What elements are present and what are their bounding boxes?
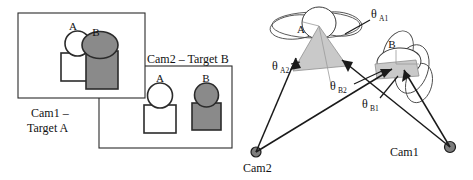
theta-b1-symbol: θ xyxy=(362,97,368,111)
cam1-view-caption-line2: Target A xyxy=(27,121,69,135)
camera-label-cam1: Cam1 xyxy=(390,145,419,159)
cam1-shape-label-b: B xyxy=(92,26,99,38)
theta-a2-symbol: θ xyxy=(272,59,278,73)
theta-a1-subscript: A1 xyxy=(379,14,388,23)
cam1-shape-label-a: A xyxy=(69,20,77,32)
cam2-shape-label-b: B xyxy=(202,72,209,84)
label-theta-a1: θ A1 xyxy=(371,7,388,23)
cam2-view-caption: Cam2 – Target B xyxy=(147,52,229,66)
theta-a1-symbol: θ xyxy=(371,7,377,21)
cam1-target-b-head xyxy=(82,32,118,59)
theta-b2-symbol: θ xyxy=(330,79,336,93)
cam1-view-caption-line1: Cam1 – xyxy=(31,106,70,120)
theta-b1-subscript: B1 xyxy=(370,104,379,113)
leader-theta-a1 xyxy=(345,20,370,34)
camera-dot-cam2 xyxy=(251,147,261,157)
cam2-shape-label-a: A xyxy=(156,72,164,84)
label-theta-b1: θ B1 xyxy=(362,97,379,113)
theta-a2-subscript: A2 xyxy=(280,66,289,75)
cluster-b-label: B xyxy=(388,38,395,50)
cam2-target-a-head xyxy=(148,83,173,108)
theta-b2-subscript: B2 xyxy=(338,86,347,95)
right-panel: θ A1 θ A2 θ B2 θ B1 A B xyxy=(243,7,456,175)
figure-root: A B Cam1 – Target A Cam2 – Target B A B xyxy=(0,0,473,180)
ray-cam1-to-b xyxy=(404,70,450,147)
left-panel: A B Cam1 – Target A Cam2 – Target B A B xyxy=(18,13,232,148)
label-theta-b2: θ B2 xyxy=(330,79,347,95)
cam2-target-b-head xyxy=(195,83,219,107)
cluster-a-label: A xyxy=(297,23,305,35)
cam2-target-a-body xyxy=(144,105,176,133)
leader-theta-b1 xyxy=(380,76,398,98)
label-theta-a2: θ A2 xyxy=(272,59,289,75)
camera-label-cam2: Cam2 xyxy=(243,161,272,175)
